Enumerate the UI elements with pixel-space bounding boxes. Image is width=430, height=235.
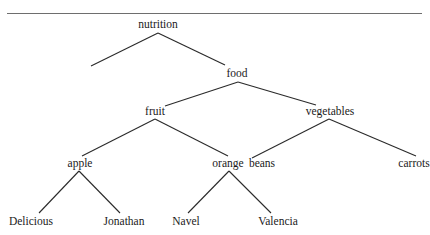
node-vegetables: vegetables bbox=[306, 106, 355, 118]
edge-fruit-orange bbox=[155, 119, 228, 156]
tree-edges bbox=[0, 0, 430, 235]
node-food: food bbox=[226, 68, 247, 80]
edge-fruit-apple bbox=[82, 119, 155, 156]
node-jonathan: Jonathan bbox=[104, 216, 145, 228]
node-valencia: Valencia bbox=[258, 216, 298, 228]
edge-vegetables-carrots bbox=[329, 119, 416, 156]
node-apple: apple bbox=[68, 158, 93, 170]
node-delicious: Delicious bbox=[9, 216, 53, 228]
node-fruit: fruit bbox=[145, 106, 165, 118]
edge-orange-navel bbox=[188, 171, 229, 213]
edge-apple-jonathan bbox=[79, 171, 120, 213]
node-nutrition: nutrition bbox=[138, 19, 178, 31]
edge-orange-valencia bbox=[229, 171, 271, 213]
edge-vegetables-beans bbox=[252, 119, 329, 158]
node-beans: beans bbox=[249, 158, 275, 170]
edge-nutrition-food bbox=[158, 33, 225, 65]
edge-food-vegetables bbox=[238, 82, 316, 105]
edge-food-fruit bbox=[165, 82, 238, 106]
node-carrots: carrots bbox=[398, 158, 429, 170]
edge-apple-delicious bbox=[39, 171, 79, 213]
edge-nutrition-(unlabeled) bbox=[91, 33, 158, 66]
tree-diagram: nutrition food fruit vegetables apple or… bbox=[0, 0, 430, 235]
node-navel: Navel bbox=[172, 216, 199, 228]
node-orange: orange bbox=[212, 158, 243, 170]
